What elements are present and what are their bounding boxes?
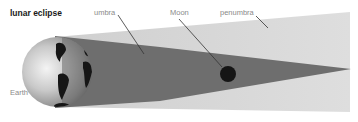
moon-body <box>220 66 236 82</box>
lunar-eclipse-diagram: lunar eclipse umbra Moon penumbra Earth <box>0 0 358 122</box>
diagram-title: lunar eclipse <box>10 9 62 18</box>
earth-label: Earth <box>10 89 28 97</box>
diagram-graphic <box>0 0 358 122</box>
penumbra-label: penumbra <box>220 9 254 17</box>
umbra-label: umbra <box>94 9 115 17</box>
moon-label: Moon <box>170 9 189 17</box>
